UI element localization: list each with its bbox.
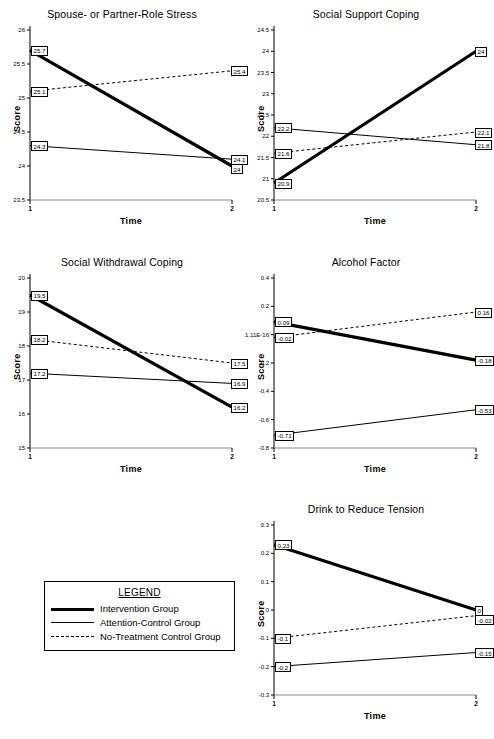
data-point-label: 17.2 — [31, 369, 48, 379]
x-axis-tick-label: 2 — [466, 453, 486, 460]
x-axis-tick-label: 2 — [222, 453, 242, 460]
legend-swatch-attention-control-icon — [51, 622, 94, 623]
x-axis-title: Time — [274, 216, 476, 226]
y-axis-tick-label: 18 — [18, 343, 25, 349]
y-axis-tick-label: 15 — [18, 445, 25, 451]
y-axis-title: Score — [256, 353, 266, 380]
data-point-label: 0.16 — [475, 308, 492, 318]
x-axis-title: Time — [274, 464, 476, 474]
y-axis-tick-label: -0.3 — [259, 692, 269, 698]
y-axis-tick-label: 22 — [262, 133, 269, 139]
x-axis-title: Time — [30, 464, 232, 474]
data-point-label: 25.1 — [31, 87, 48, 97]
x-axis-title: Time — [30, 216, 232, 226]
series-line — [30, 50, 232, 166]
legend-entries: Intervention Group Attention-Control Gro… — [51, 602, 230, 644]
legend-label-attention-control: Attention-Control Group — [100, 616, 200, 630]
series-line — [274, 312, 476, 338]
data-point-label: 19.5 — [31, 291, 48, 301]
data-point-label: 0 — [475, 606, 483, 616]
y-axis-tick-label: 25.5 — [13, 61, 25, 67]
data-point-label: 20.9 — [275, 179, 292, 189]
y-axis-tick-label: -0.8 — [259, 445, 269, 451]
data-point-label: -0.18 — [475, 356, 494, 366]
y-axis-tick-label: 23.5 — [257, 70, 269, 76]
x-axis-tick-label: 1 — [264, 205, 284, 212]
y-axis-tick-label: 24 — [262, 48, 269, 54]
y-axis-tick-label: 21 — [262, 176, 269, 182]
data-point-label: 24 — [231, 164, 243, 174]
legend-label-intervention: Intervention Group — [100, 602, 179, 616]
data-point-label: 24.3 — [31, 141, 48, 151]
series-line — [30, 373, 232, 383]
data-point-label: -0.71 — [275, 431, 294, 441]
data-point-label: -0.1 — [275, 634, 291, 644]
x-axis-title: Time — [274, 711, 476, 721]
chart-panel-spouse-partner-role-stress: Spouse- or Partner-Role Stress2625.52524… — [0, 0, 244, 247]
chart-panel-drink-to-reduce-tension: Drink to Reduce Tension0.30.20.10-0.1-0.… — [244, 495, 488, 739]
y-axis-title: Score — [12, 353, 22, 380]
series-line — [274, 616, 476, 639]
series-line — [274, 410, 476, 436]
y-axis-tick-label: 0 — [266, 607, 269, 613]
data-point-label: 24 — [475, 47, 487, 57]
data-point-label: 21.6 — [275, 149, 292, 159]
x-axis-tick-label: 2 — [222, 205, 242, 212]
series-line — [30, 71, 232, 91]
list-item: Attention-Control Group — [51, 616, 230, 630]
y-axis-tick-label: -0.6 — [259, 417, 269, 423]
y-axis-tick-label: 0.4 — [261, 275, 269, 281]
data-point-label: 18.2 — [31, 335, 48, 345]
y-axis-tick-label: 19 — [18, 309, 25, 315]
y-axis-tick-label: 24 — [18, 163, 25, 169]
data-point-label: 0.09 — [275, 317, 292, 327]
x-axis-tick-label: 1 — [20, 453, 40, 460]
y-axis-tick-label: 20.5 — [257, 197, 269, 203]
y-axis-title: Score — [12, 105, 22, 132]
data-point-label: -0.02 — [275, 333, 294, 343]
data-point-label: 25.7 — [31, 46, 48, 56]
x-axis-tick-label: 2 — [466, 205, 486, 212]
series-line — [274, 322, 476, 360]
chart-panel-social-withdrawal-coping: Social Withdrawal Coping20191817161512Sc… — [0, 248, 244, 495]
x-axis-tick-label: 1 — [20, 205, 40, 212]
y-axis-tick-label: 0.3 — [261, 522, 269, 528]
series-line — [274, 653, 476, 667]
y-axis-tick-label: 16 — [18, 411, 25, 417]
chart-panel-alcohol-factor: Alcohol Factor0.40.21.11E-16-0.2-0.4-0.6… — [244, 248, 488, 495]
y-axis-tick-label: 23 — [262, 91, 269, 97]
legend-label-no-treatment: No-Treatment Control Group — [100, 630, 221, 644]
series-line — [274, 51, 476, 183]
y-axis-tick-label: 1.11E-16 — [245, 332, 269, 338]
list-item: Intervention Group — [51, 602, 230, 616]
legend-swatch-no-treatment-icon — [51, 636, 94, 637]
legend: LEGEND Intervention Group Attention-Cont… — [44, 581, 235, 651]
data-point-label: -0.2 — [275, 662, 291, 672]
y-axis-tick-label: -0.1 — [259, 635, 269, 641]
y-axis-tick-label: 26 — [18, 27, 25, 33]
y-axis-tick-label: -0.4 — [259, 388, 269, 394]
y-axis-tick-label: -0.2 — [259, 664, 269, 670]
data-point-label: 22.2 — [275, 123, 292, 133]
data-point-label: -0.02 — [475, 615, 494, 625]
y-axis-title: Score — [256, 600, 266, 627]
y-axis-tick-label: 21.5 — [257, 155, 269, 161]
y-axis-tick-label: 25 — [18, 95, 25, 101]
data-point-label: -0.53 — [475, 405, 494, 415]
y-axis-tick-label: 0.2 — [261, 303, 269, 309]
list-item: No-Treatment Control Group — [51, 630, 230, 644]
y-axis-tick-label: 23.5 — [13, 197, 25, 203]
legend-title: LEGEND — [45, 587, 234, 598]
x-axis-tick-label: 2 — [466, 700, 486, 707]
data-point-label: 0.23 — [275, 540, 292, 550]
series-line — [30, 339, 232, 363]
y-axis-title: Score — [256, 105, 266, 132]
x-axis-tick-label: 1 — [264, 700, 284, 707]
data-point-label: 21.8 — [475, 140, 492, 150]
y-axis-tick-label: 0.2 — [261, 550, 269, 556]
x-axis-tick-label: 1 — [264, 453, 284, 460]
data-point-label: -0.15 — [475, 648, 494, 658]
data-point-label: 22.1 — [475, 128, 492, 138]
legend-swatch-intervention-icon — [51, 608, 94, 611]
chart-panel-social-support-coping: Social Support Coping24.52423.52322.5222… — [244, 0, 488, 247]
